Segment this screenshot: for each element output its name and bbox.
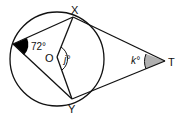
label-x: X — [71, 4, 79, 16]
label-t: T — [168, 56, 175, 68]
geometry-figure: X Y O T 72° j° k° — [0, 0, 180, 118]
tangent-xt — [73, 17, 165, 61]
label-o: O — [45, 52, 54, 64]
label-y: Y — [68, 103, 76, 115]
tangent-yt — [72, 61, 165, 99]
diagram: X Y O T 72° j° k° — [0, 0, 180, 118]
label-j: j° — [62, 54, 70, 65]
label-72: 72° — [31, 41, 46, 52]
label-k: k° — [131, 55, 140, 66]
